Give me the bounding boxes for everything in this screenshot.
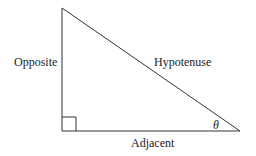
- label-hypotenuse: Hypotenuse: [154, 56, 211, 68]
- triangle-diagram: [0, 0, 256, 156]
- triangle: [62, 8, 240, 131]
- label-opposite: Opposite: [14, 56, 57, 68]
- label-angle-theta: θ: [213, 119, 219, 131]
- label-adjacent: Adjacent: [131, 137, 174, 149]
- right-angle-marker: [62, 117, 76, 131]
